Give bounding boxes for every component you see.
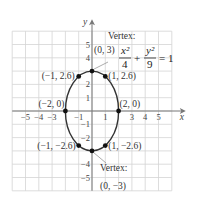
data-point: [103, 143, 108, 148]
point-label: (1, −2.6): [108, 141, 141, 152]
eq-rhs: = 1: [159, 52, 173, 64]
point-label: (2, 0): [120, 99, 141, 110]
eq-plus: +: [134, 52, 140, 64]
eq-term1-numerator: x²: [120, 44, 130, 56]
x-tick-label: 1: [103, 112, 107, 122]
y-tick-label: 1: [86, 93, 90, 103]
eq-term2-numerator: y²: [145, 44, 155, 56]
vertex-leader-bottom: [94, 153, 106, 163]
y-tick-label: −4: [81, 159, 91, 169]
x-tick-label: −3: [48, 112, 57, 122]
equation: x² 4 + y² 9 = 1: [119, 44, 173, 70]
eq-term1-denominator: 4: [122, 58, 128, 70]
vertex-annotation-bottom: Vertex:: [100, 163, 127, 173]
point-label: (1, 2.6): [108, 71, 136, 82]
data-point: [90, 69, 95, 74]
x-tick-label: 4: [143, 112, 148, 122]
data-point: [63, 109, 68, 114]
point-label: (−2, 0): [38, 99, 64, 110]
x-tick-label: −4: [34, 112, 44, 122]
y-axis-label: y: [82, 17, 88, 27]
point-label: (0, 3): [94, 45, 115, 56]
data-point: [76, 143, 81, 148]
y-tick-label: 2: [86, 79, 90, 89]
y-tick-label: −2: [81, 133, 90, 143]
data-point: [116, 109, 121, 114]
data-point: [103, 74, 108, 79]
point-label: (−1, 2.6): [42, 71, 75, 82]
vertex-leader-top: [94, 62, 108, 69]
y-tick-label: 5: [86, 40, 90, 50]
y-tick-label: −5: [81, 173, 90, 183]
data-point: [90, 149, 95, 154]
point-label: (−1, −2.6): [37, 141, 75, 152]
vertex-annotation-top: Vertex:: [108, 31, 135, 41]
ellipse-graph: xy −5−4−3−113455421−1−2−4−5 (0, 3)(−1, 2…: [0, 0, 213, 203]
x-tick-label: −5: [21, 112, 30, 122]
x-tick-label: 5: [156, 112, 160, 122]
x-axis-label: x: [179, 112, 185, 122]
x-tick-label: 3: [130, 112, 134, 122]
point-label: (0, −3): [100, 181, 126, 192]
y-tick-label: −1: [81, 119, 90, 129]
data-point: [76, 74, 81, 79]
eq-term2-denominator: 9: [147, 58, 153, 70]
